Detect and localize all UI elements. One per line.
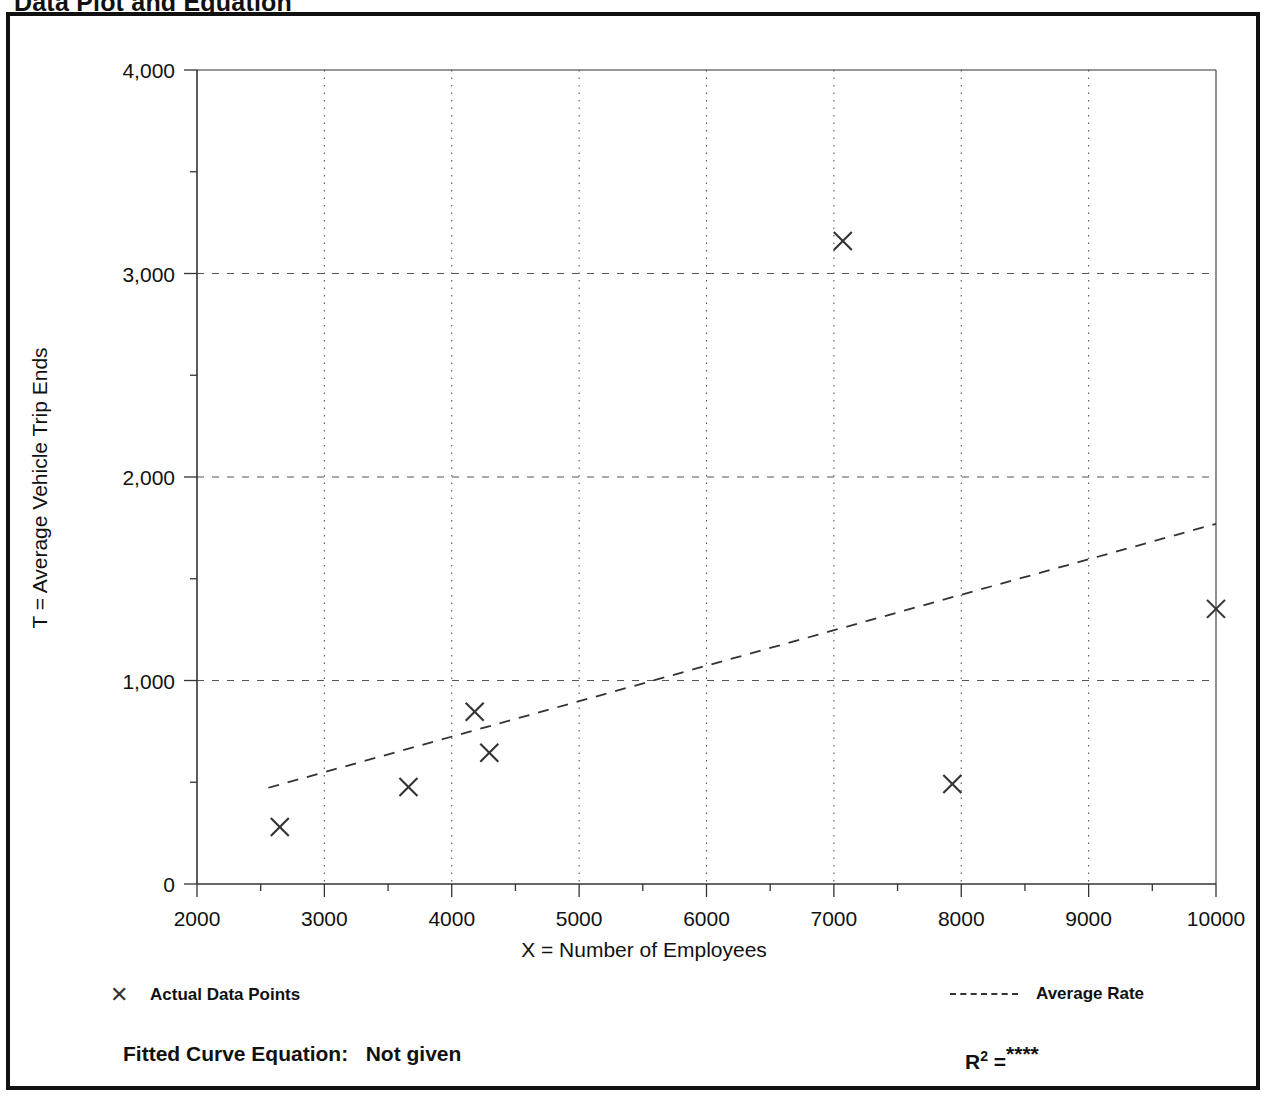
x-tick-label: 9000 (1065, 907, 1112, 930)
data-points-group (271, 232, 1225, 836)
x-tick-label: 6000 (683, 907, 730, 930)
x-marker-icon: ✕ (110, 984, 128, 1006)
x-tick-label: 4000 (428, 907, 475, 930)
chart-tick-labels: 200030004000500060007000800090001000001,… (122, 59, 1245, 930)
x-tick-label: 3000 (301, 907, 348, 930)
y-tick-label: 3,000 (122, 263, 175, 286)
x-tick-label: 10000 (1187, 907, 1245, 930)
y-tick-label: 4,000 (122, 59, 175, 82)
y-tick-label: 0 (163, 873, 175, 896)
figure-frame: 200030004000500060007000800090001000001,… (6, 12, 1260, 1090)
y-tick-label: 1,000 (122, 670, 175, 693)
trendline-average-rate (268, 524, 1216, 788)
data-point-marker (399, 778, 417, 796)
chart-ticks (184, 70, 1216, 897)
legend-actual-data-points: ✕ Actual Data Points (110, 984, 300, 1006)
y-axis-title: T = Average Vehicle Trip Ends (28, 308, 52, 668)
r-squared-value: R2 =**** (965, 1042, 1039, 1074)
chart-plot-area: 200030004000500060007000800090001000001,… (10, 16, 1264, 1094)
x-tick-label: 5000 (556, 907, 603, 930)
trendline (268, 524, 1216, 788)
r2-label: R (965, 1050, 980, 1073)
data-point-marker (271, 818, 289, 836)
equation-label: Fitted Curve Equation: (123, 1042, 348, 1065)
legend-actual-label: Actual Data Points (150, 985, 300, 1005)
fitted-curve-equation: Fitted Curve Equation: Not given (123, 1042, 461, 1066)
r2-equals: = (994, 1050, 1006, 1073)
y-tick-label: 2,000 (122, 466, 175, 489)
legend-average-label: Average Rate (1036, 984, 1144, 1004)
chart-gridlines (197, 70, 1216, 884)
x-tick-label: 8000 (938, 907, 985, 930)
data-point-marker (943, 775, 961, 793)
equation-value: Not given (366, 1042, 462, 1065)
r2-exponent: 2 (980, 1048, 988, 1064)
x-tick-label: 2000 (174, 907, 221, 930)
data-point-marker (834, 232, 852, 250)
dashed-line-icon (950, 993, 1018, 995)
data-point-marker (480, 744, 498, 762)
x-axis-title: X = Number of Employees (10, 938, 1268, 962)
x-tick-label: 7000 (811, 907, 858, 930)
equation-spacer (354, 1042, 360, 1065)
legend-average-rate: Average Rate (950, 984, 1144, 1004)
data-point-marker (466, 703, 484, 721)
r2-stars: **** (1006, 1042, 1039, 1065)
